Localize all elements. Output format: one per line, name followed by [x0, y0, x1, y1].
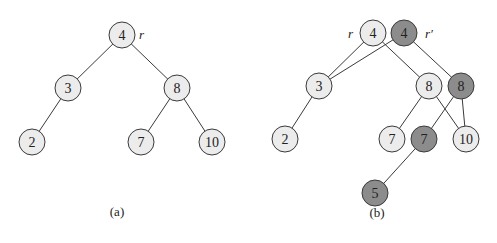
node-key: 4	[401, 26, 408, 41]
node-key: 3	[65, 81, 72, 96]
node-key: 8	[458, 79, 465, 94]
tree-node-7: 7	[379, 126, 405, 152]
root-pointer-label: r′	[425, 26, 433, 41]
node-key: 7	[389, 132, 396, 147]
tree-node-8: 8	[164, 75, 190, 101]
node-key: 7	[421, 132, 428, 147]
tree-node-7: 7	[128, 129, 154, 155]
panel-b-persistent-tree: 44388277105rr′(b)	[272, 20, 479, 220]
node-key: 10	[205, 135, 219, 150]
tree-node-4: 4	[360, 20, 386, 46]
root-pointer-label: r	[348, 26, 354, 41]
panel-a-original-tree: 4382710r(a)	[19, 22, 225, 219]
tree-node-4-copy: 4	[391, 20, 417, 46]
panel-caption: (a)	[110, 204, 124, 219]
node-key: 3	[316, 79, 323, 94]
node-key: 8	[174, 81, 181, 96]
tree-edge	[319, 33, 404, 86]
tree-node-7-copy: 7	[411, 126, 437, 152]
node-key: 2	[29, 135, 36, 150]
node-key: 10	[459, 132, 473, 147]
tree-node-2: 2	[272, 126, 298, 152]
tree-node-8-copy: 8	[448, 73, 474, 99]
tree-node-10: 10	[453, 126, 479, 152]
node-key: 2	[282, 132, 289, 147]
tree-node-3: 3	[306, 73, 332, 99]
node-key: 5	[372, 186, 379, 201]
tree-node-5-copy: 5	[362, 180, 388, 206]
tree-diagram: 4382710r(a) 44388277105rr′(b)	[0, 0, 497, 243]
tree-node-8: 8	[416, 73, 442, 99]
tree-node-10: 10	[199, 129, 225, 155]
tree-node-2: 2	[19, 129, 45, 155]
panel-caption: (b)	[369, 205, 384, 220]
node-key: 7	[138, 135, 145, 150]
node-key: 4	[119, 28, 126, 43]
node-key: 4	[370, 26, 377, 41]
node-key: 8	[426, 79, 433, 94]
root-pointer-label: r	[139, 27, 145, 42]
tree-node-3: 3	[55, 75, 81, 101]
tree-node-4: 4	[109, 22, 135, 48]
